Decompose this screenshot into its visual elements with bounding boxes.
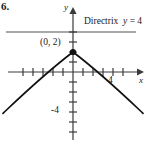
vertex-point-marker [70,49,76,55]
x-axis-label: x [139,76,143,85]
y-axis-label: y [64,3,68,12]
problem-number: 6. [1,1,9,12]
vertex-point-label: (0, 2) [40,38,61,48]
y-axis-tick-label-neg4: -4 [51,106,59,116]
directrix-label-equation: = 4 [130,16,142,26]
parabola-figure: 6. Directrix y = 4 (0, 2) y x 4 -4 [0,0,153,143]
directrix-label-text: Directrix [84,16,118,26]
directrix-label-variable: y [123,16,127,26]
y-axis-arrowhead [69,7,76,14]
x-axis-tick-label-4: 4 [108,76,113,86]
directrix-label: Directrix y = 4 [84,17,142,27]
